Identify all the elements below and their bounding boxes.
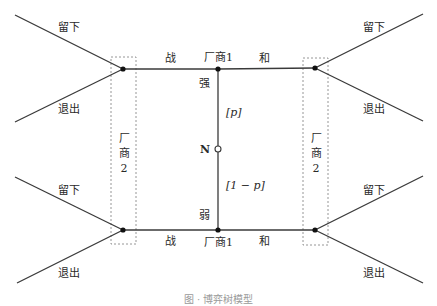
label-stay-left-bottom: 留下 xyxy=(58,185,80,196)
label-firm2-right-line1: 厂 xyxy=(309,131,323,146)
label-prob-1-p: [1 − p] xyxy=(226,180,265,191)
node-firm1-top xyxy=(215,66,220,71)
label-exit-left-bottom: 退出 xyxy=(58,268,80,279)
label-exit-right-bottom: 退出 xyxy=(363,268,385,279)
label-stay-right-top: 留下 xyxy=(363,22,385,33)
label-peace-bottom: 和 xyxy=(259,236,270,247)
node-firm1-bottom xyxy=(215,227,220,232)
label-stay-right-bottom: 留下 xyxy=(363,185,385,196)
label-exit-right-top: 退出 xyxy=(363,104,385,115)
node-firm2-right-bottom xyxy=(312,227,317,232)
label-weak: 弱 xyxy=(199,210,210,221)
edge-peace-top xyxy=(218,68,315,69)
label-nature-N: N xyxy=(200,144,210,155)
label-firm2-left-line2: 商 xyxy=(117,146,131,161)
node-firm2-left-top xyxy=(120,66,125,71)
label-strong: 强 xyxy=(199,78,210,89)
label-fight-bottom: 战 xyxy=(165,236,176,247)
label-firm2-left-line1: 厂 xyxy=(117,131,131,146)
label-firm2-right-line2: 商 xyxy=(309,146,323,161)
label-exit-left-top: 退出 xyxy=(58,104,80,115)
node-firm2-right-top xyxy=(312,65,317,70)
label-stay-left-top: 留下 xyxy=(58,22,80,33)
label-firm1-top: 厂商1 xyxy=(204,52,233,63)
label-firm1-bottom: 厂商1 xyxy=(204,237,233,248)
label-firm2-left-line3: 2 xyxy=(117,161,131,176)
node-firm2-left-bottom xyxy=(120,227,125,232)
label-firm2-right-line3: 2 xyxy=(309,161,323,176)
label-firm2-left: 厂 商 2 xyxy=(117,131,131,176)
label-prob-p: [p] xyxy=(226,107,242,118)
label-peace-top: 和 xyxy=(259,53,270,64)
label-firm2-right: 厂 商 2 xyxy=(309,131,323,176)
figure-caption: 图 · 博弈树模型 xyxy=(0,291,437,306)
label-fight-top: 战 xyxy=(165,53,176,64)
node-nature xyxy=(215,146,221,152)
